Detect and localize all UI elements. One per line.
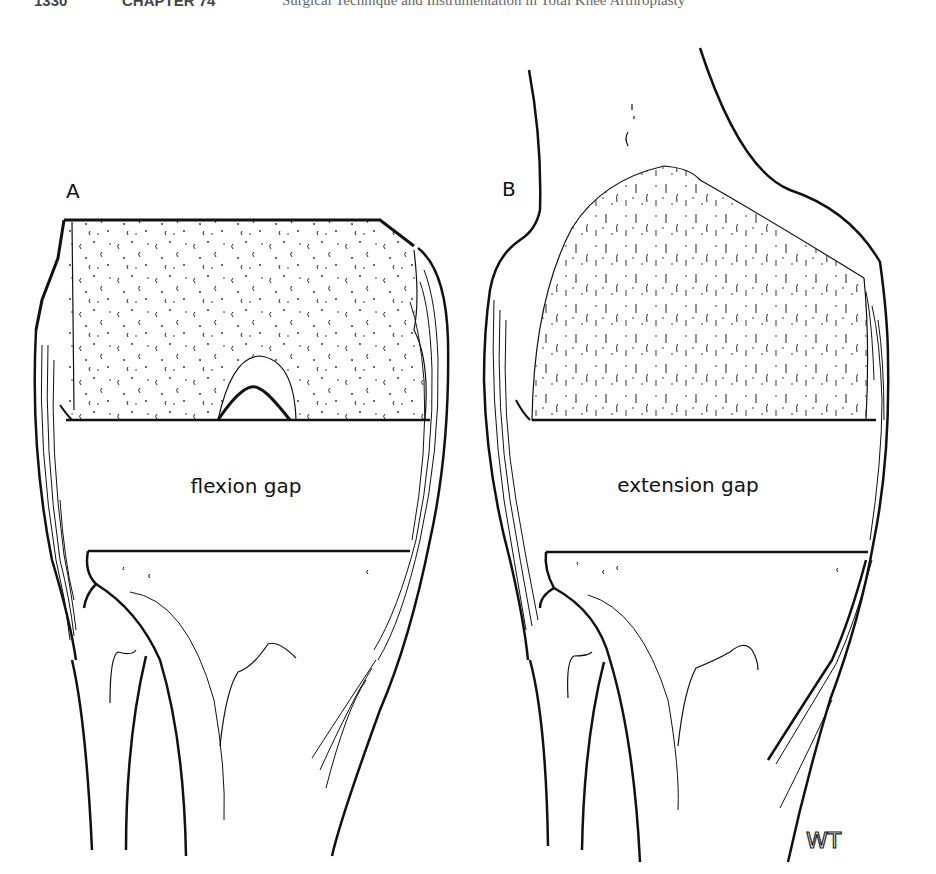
panel-b-label: B	[502, 177, 516, 201]
ligament-left-b	[484, 300, 538, 660]
femur-cut-a	[36, 220, 430, 420]
artist-signature: WT	[806, 828, 842, 853]
panel-a-label: A	[66, 179, 80, 203]
knee-gap-figure: A	[0, 0, 936, 874]
svg-text:WT: WT	[806, 828, 842, 853]
extension-gap-label: extension gap	[617, 473, 759, 497]
tibia-b	[530, 552, 868, 862]
flexion-gap-label: flexion gap	[191, 474, 302, 498]
femur-condyle-b	[516, 104, 876, 420]
panel-b: B exten	[484, 48, 888, 862]
tibia-a	[72, 551, 410, 856]
panel-a: A	[35, 179, 448, 856]
